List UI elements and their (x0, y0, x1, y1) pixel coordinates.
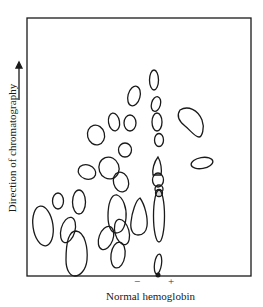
spot (152, 113, 162, 131)
spot (73, 190, 86, 214)
spot (85, 123, 107, 147)
fingerprint-diagram (0, 0, 263, 307)
spot (178, 108, 203, 137)
spot (96, 154, 122, 182)
peptide-map-figure: Direction of chromatography − + Normal h… (0, 0, 263, 307)
spot (150, 96, 163, 113)
x-axis-label: Normal hemoglobin (0, 290, 263, 302)
spot (107, 112, 121, 132)
spot (53, 193, 64, 209)
spot (153, 157, 162, 175)
spot (153, 254, 163, 275)
spot (111, 170, 131, 193)
y-axis-label: Direction of chromatography (6, 84, 18, 212)
plus-label: + (168, 275, 174, 287)
spot (126, 85, 143, 107)
spot (155, 134, 164, 147)
spot (124, 115, 136, 131)
spot (154, 190, 165, 242)
minus-label: − (134, 275, 140, 287)
spot (66, 231, 87, 276)
spot (109, 241, 126, 269)
spot (190, 156, 214, 171)
spot (150, 70, 159, 90)
spot (119, 143, 132, 157)
origin-dot (156, 273, 161, 278)
spot (30, 205, 55, 247)
arrow-up-icon (16, 62, 22, 68)
spot (131, 198, 147, 235)
spot (112, 218, 132, 247)
spot (76, 162, 98, 181)
